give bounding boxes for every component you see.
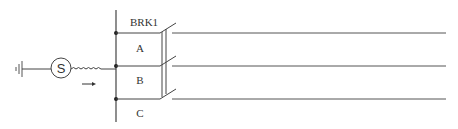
ground-icon [16,61,22,77]
source-symbol-label: S [57,61,66,76]
source-generator-icon: S [51,58,71,78]
flow-arrow-icon [82,82,96,86]
breaker-label: BRK1 [130,16,158,28]
phase-label-c: C [136,107,143,119]
one-line-diagram: S BRK1 A B C [0,0,458,129]
breaker-brk1[interactable] [160,23,176,99]
phase-label-a: A [136,42,144,54]
phase-label-b: B [136,74,143,86]
inductor-coil-icon [71,68,101,70]
